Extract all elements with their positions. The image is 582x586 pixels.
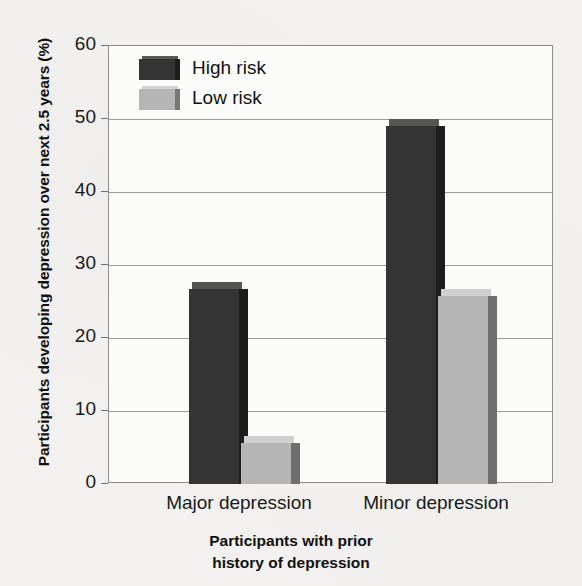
- bar-side-face: [488, 296, 497, 484]
- legend-label-high-risk: High risk: [192, 57, 266, 79]
- x-axis-title-line-1: Participants with prior: [0, 530, 582, 552]
- bar-high-risk: [386, 126, 436, 484]
- y-tick-label: 50: [50, 106, 96, 128]
- y-tick-mark: [101, 483, 108, 484]
- y-tick-label: 30: [50, 252, 96, 274]
- y-tick-mark: [101, 410, 108, 411]
- y-tick-mark: [101, 337, 108, 338]
- y-tick-mark: [101, 118, 108, 119]
- x-axis-title: Participants with prior history of depre…: [0, 530, 582, 575]
- x-category-label: Minor depression: [316, 492, 556, 514]
- legend-item: High risk: [139, 54, 266, 82]
- figure-page: Participants developing depression over …: [0, 0, 582, 586]
- y-tick-mark: [101, 45, 108, 46]
- bar-front-face: [189, 289, 239, 484]
- bar-top-face: [389, 119, 439, 126]
- y-tick-label: 60: [50, 33, 96, 55]
- bar-high-risk: [189, 289, 239, 484]
- legend-label-low-risk: Low risk: [192, 87, 262, 109]
- y-tick-label: 10: [50, 398, 96, 420]
- bar-top-face: [441, 289, 491, 296]
- bar-side-face: [291, 443, 300, 484]
- bar-low-risk: [241, 443, 291, 484]
- dark-swatch-icon: [139, 56, 180, 80]
- plot-area: High risk Low risk: [108, 45, 553, 483]
- legend: High risk Low risk: [139, 54, 266, 112]
- gridline: [109, 265, 552, 266]
- y-tick-mark: [101, 264, 108, 265]
- light-swatch-icon: [139, 86, 180, 110]
- bar-low-risk: [438, 296, 488, 484]
- bar-top-face: [244, 436, 294, 443]
- gridline: [109, 192, 552, 193]
- bar-top-face: [192, 282, 242, 289]
- bar-front-face: [386, 126, 436, 484]
- legend-item: Low risk: [139, 84, 266, 112]
- x-axis-title-line-2: history of depression: [0, 552, 582, 574]
- y-tick-label: 40: [50, 179, 96, 201]
- gridline: [109, 119, 552, 120]
- bar-front-face: [241, 443, 291, 484]
- bar-front-face: [438, 296, 488, 484]
- y-tick-label: 0: [50, 471, 96, 493]
- y-tick-label: 20: [50, 325, 96, 347]
- y-tick-mark: [101, 191, 108, 192]
